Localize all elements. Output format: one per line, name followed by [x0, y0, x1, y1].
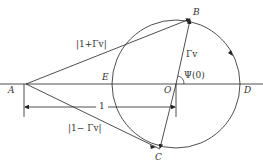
point-a-label: A — [8, 86, 15, 95]
point-e-label: E — [102, 73, 109, 82]
one-minus-gamma-label: |1− Γv| — [68, 124, 102, 133]
one-plus-gamma-label: |1+Γv| — [76, 40, 107, 49]
diagram-drawing — [0, 0, 263, 162]
reflection-coefficient-circle-diagram: A B C D E O |1+Γv| |1− Γv| Γv Ψ(0) 1 — [0, 0, 263, 162]
point-b-label: B — [193, 8, 200, 17]
unit-length-label: 1 — [99, 102, 105, 111]
point-o-label: O — [164, 86, 171, 95]
point-c-label: C — [155, 153, 162, 162]
psi-label: Ψ(0) — [184, 71, 205, 80]
point-d-label: D — [244, 86, 251, 95]
vector-a-to-c — [26, 84, 160, 149]
gamma-label: Γv — [186, 50, 197, 59]
